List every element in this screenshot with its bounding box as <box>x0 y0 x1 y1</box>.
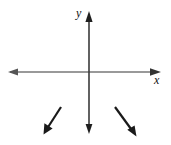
left-down-arrow-head <box>44 123 53 134</box>
x-axis-label: x <box>154 74 159 86</box>
coordinate-axes-figure: y x <box>0 0 171 145</box>
x-axis <box>8 68 161 76</box>
x-axis-left-arrowhead <box>8 68 18 75</box>
right-down-arrow <box>115 107 137 137</box>
clipped-caption-text <box>0 138 171 145</box>
y-axis-down-arrowhead <box>86 124 93 134</box>
y-axis-label: y <box>76 7 81 19</box>
right-down-arrow-shaft <box>115 107 133 131</box>
left-down-arrow <box>44 107 62 135</box>
y-axis-up-arrowhead <box>85 11 92 22</box>
figure-canvas <box>0 0 171 145</box>
